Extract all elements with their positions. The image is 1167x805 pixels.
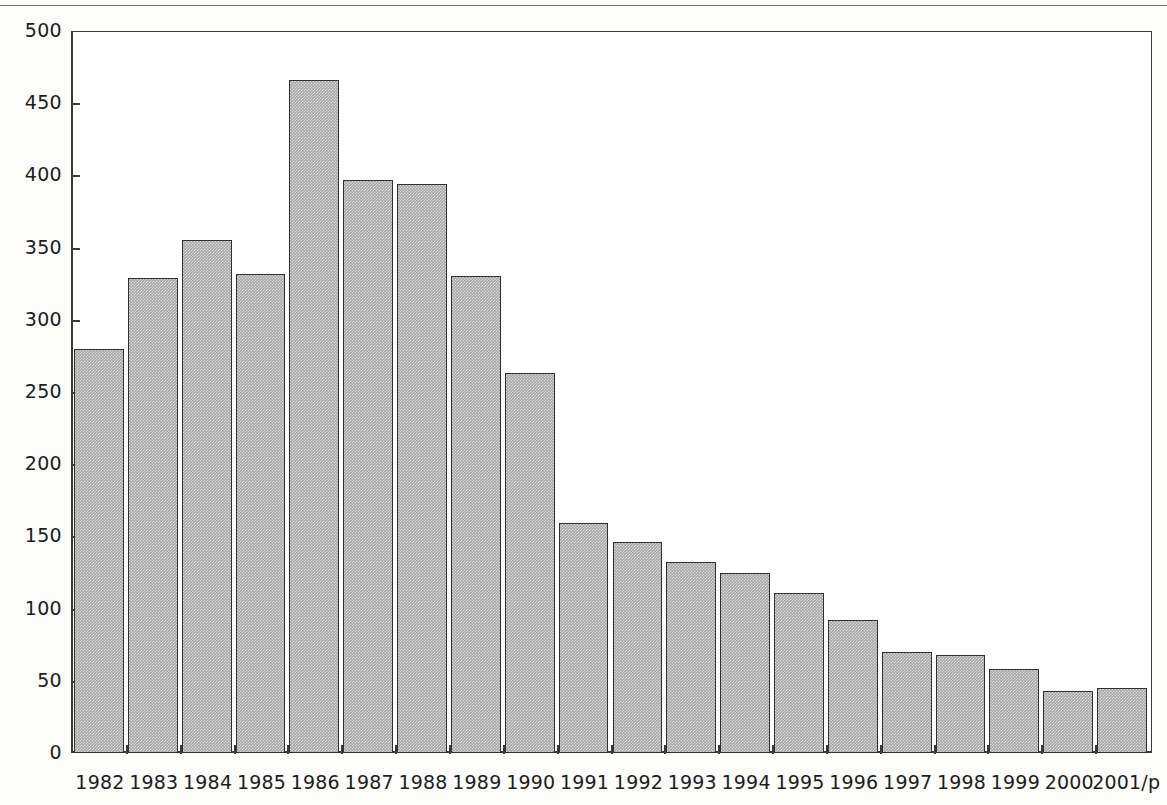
- x-axis-tick-label: 1987: [338, 773, 400, 792]
- chart-page: 500450400350300250200150100500 198219831…: [0, 0, 1167, 805]
- x-axis-tick-mark: [934, 745, 936, 754]
- x-axis-tick-mark: [1095, 745, 1097, 754]
- bar: [236, 274, 286, 753]
- x-axis-tick-mark: [126, 745, 128, 754]
- bar: [343, 180, 393, 753]
- bar: [774, 593, 824, 753]
- y-axis-tick-label: 500: [6, 21, 62, 40]
- x-axis-tick-label: 1988: [392, 773, 454, 792]
- bar: [182, 240, 232, 753]
- x-axis-tick-label: 1986: [284, 773, 346, 792]
- bar-series: [73, 31, 1150, 753]
- bar: [451, 276, 501, 753]
- y-axis-tick-label: 400: [6, 165, 62, 184]
- x-axis-tick-label: 1999: [984, 773, 1046, 792]
- bar: [1097, 688, 1147, 753]
- x-axis-tick-label: 1984: [177, 773, 239, 792]
- x-axis-tick-label: 1993: [661, 773, 723, 792]
- bar: [936, 655, 986, 753]
- x-axis-tick-label: 1998: [931, 773, 993, 792]
- x-axis-tick-mark: [611, 745, 613, 754]
- x-axis-tick-label: 1991: [554, 773, 616, 792]
- y-axis-tick-label: 450: [6, 93, 62, 112]
- bar: [74, 349, 124, 753]
- x-axis-tick-mark: [664, 745, 666, 754]
- bar: [397, 184, 447, 753]
- x-axis-tick-label: 2000: [1038, 773, 1100, 792]
- x-axis-tick-mark: [826, 745, 828, 754]
- x-axis-tick-label: 1995: [769, 773, 831, 792]
- x-axis-tick-mark: [234, 745, 236, 754]
- x-axis-tick-label: 1985: [231, 773, 293, 792]
- x-axis-tick-mark: [287, 745, 289, 754]
- x-axis-tick-mark: [718, 745, 720, 754]
- x-axis-labels: 1982198319841985198619871988198919901991…: [73, 773, 1150, 799]
- x-axis-tick-mark: [880, 745, 882, 754]
- x-axis-tick-mark: [180, 745, 182, 754]
- x-axis-tick-mark: [395, 745, 397, 754]
- y-axis-tick-label: 350: [6, 238, 62, 257]
- y-axis-tick-label: 100: [6, 599, 62, 618]
- bar: [1043, 691, 1093, 753]
- y-axis-tick-label: 50: [6, 671, 62, 690]
- x-axis-tick-label: 1994: [715, 773, 777, 792]
- x-axis-tick-label: 1989: [446, 773, 508, 792]
- y-axis-tick-label: 300: [6, 310, 62, 329]
- page-top-rule: [0, 5, 1167, 6]
- y-axis-tick-label: 250: [6, 382, 62, 401]
- x-axis-tick-mark: [449, 745, 451, 754]
- bar: [128, 278, 178, 753]
- bar: [989, 669, 1039, 753]
- x-axis-tick-label: 1982: [69, 773, 131, 792]
- y-axis-tick-label: 150: [6, 526, 62, 545]
- y-axis-tick-label: 200: [6, 454, 62, 473]
- x-axis-tick-label: 1992: [608, 773, 670, 792]
- x-axis-tick-mark: [987, 745, 989, 754]
- x-axis-tick-label: 1997: [877, 773, 939, 792]
- x-axis-tick-label: 1990: [500, 773, 562, 792]
- x-axis-tick-label: 1983: [123, 773, 185, 792]
- bar: [882, 652, 932, 753]
- x-axis-tick-mark: [503, 745, 505, 754]
- x-axis-tick-label: 2001/p: [1092, 773, 1154, 792]
- x-axis-tick-mark: [1041, 745, 1043, 754]
- x-axis-tick-mark: [557, 745, 559, 754]
- x-axis-tick-mark: [341, 745, 343, 754]
- bar: [666, 562, 716, 753]
- bar: [505, 373, 555, 753]
- bar: [289, 80, 339, 753]
- bar: [559, 523, 609, 753]
- y-axis-tick-label: 0: [6, 743, 62, 762]
- bar: [720, 573, 770, 754]
- x-axis-tick-label: 1996: [823, 773, 885, 792]
- bar: [613, 542, 663, 753]
- x-axis-tick-mark: [772, 745, 774, 754]
- bar: [828, 620, 878, 753]
